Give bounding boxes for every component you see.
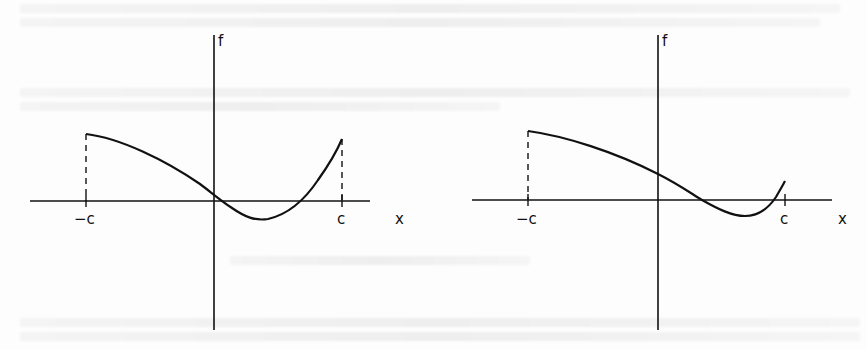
y-axis-label: f [218, 32, 224, 50]
c-label: c [337, 210, 345, 228]
x-axis-label: x [395, 210, 404, 228]
scanned-page: f −c c x f −c c x [0, 0, 867, 350]
right-graph: f −c c x [472, 32, 847, 330]
c-label: c [780, 210, 788, 228]
x-axis-label: x [838, 210, 847, 228]
function-graphs-figure: f −c c x f −c c x [0, 0, 867, 350]
function-curve [528, 131, 785, 216]
neg-c-label: −c [74, 210, 95, 228]
left-graph: f −c c x [30, 32, 404, 330]
neg-c-label: −c [516, 210, 537, 228]
y-axis-label: f [662, 32, 668, 50]
